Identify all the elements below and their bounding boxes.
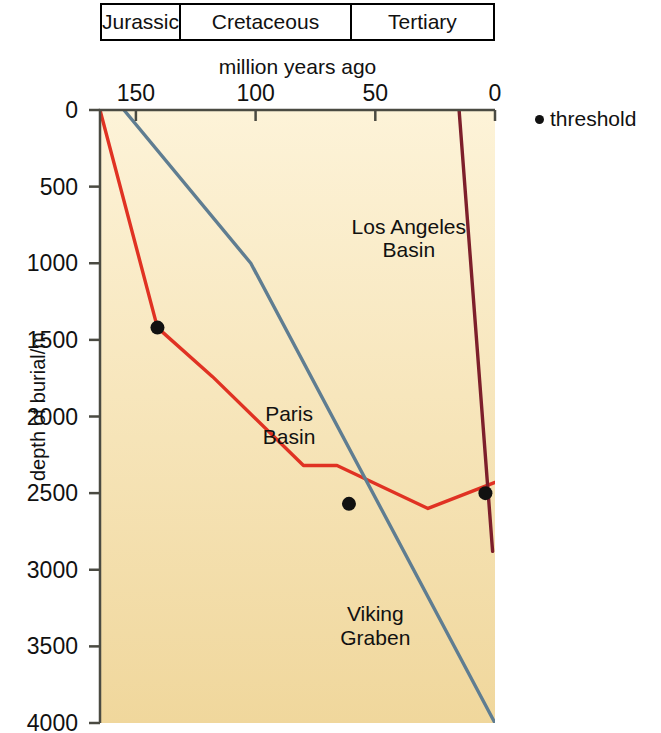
x-tick-label: 100 [236,80,274,107]
geological-period-bar: JurassicCretaceousTertiary [100,3,495,41]
burial-history-chart: JurassicCretaceousTertiary million years… [0,0,661,733]
threshold-dot-icon [535,115,544,124]
period-cell-jurassic: Jurassic [102,5,181,39]
y-tick-row: 500 [0,187,92,188]
y-tick-row: 1000 [0,263,92,264]
x-axis-title: million years ago [100,55,495,79]
series-label-los-angeles-basin: Los AngelesBasin [352,215,466,262]
x-tick-label: 50 [363,80,389,107]
y-tick-label: 0 [65,97,78,124]
period-cell-cretaceous: Cretaceous [181,5,352,39]
y-tick-row: 3500 [0,646,92,647]
period-cell-tertiary: Tertiary [352,5,493,39]
y-tick-row: 0 [0,110,92,111]
series-label-viking-graben: VikingGraben [340,602,410,649]
threshold-marker [342,497,356,511]
y-tick-row: 2500 [0,493,92,494]
y-tick-row: 3000 [0,570,92,571]
y-tick-row: 2000 [0,417,92,418]
y-tick-label: 4000 [27,710,78,733]
series-label-paris-basin: ParisBasin [263,402,316,449]
y-tick-label: 500 [40,173,78,200]
y-tick-row: 1500 [0,340,92,341]
x-tick-label: 150 [117,80,155,107]
y-tick-label: 2000 [27,403,78,430]
y-tick-label: 1500 [27,326,78,353]
threshold-marker [150,321,164,335]
x-tick-label: 0 [489,80,502,107]
y-tick-label: 2500 [27,480,78,507]
threshold-marker [478,486,492,500]
y-tick-row: 4000 [0,723,92,724]
y-tick-label: 1000 [27,250,78,277]
y-tick-label: 3000 [27,556,78,583]
legend: threshold [535,107,636,131]
y-tick-label: 3500 [27,633,78,660]
legend-label: threshold [550,107,636,131]
